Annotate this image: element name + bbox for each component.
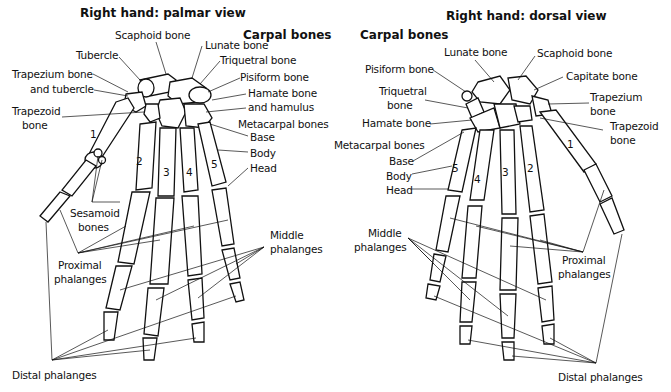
palmar-label-head: Head [250, 163, 277, 175]
palmar-thumb-proximal-phalanx [62, 160, 96, 196]
palmar-ring-distal-phalanx [192, 322, 204, 342]
dorsal-middle-distal-phalanx [502, 342, 514, 360]
palmar-metacarpal-3 [158, 128, 176, 196]
palmar-label-trapezoid-2: bone [22, 120, 47, 132]
palmar-label-base: Base [250, 132, 275, 144]
palmar-label-hamate-2: and hamulus [248, 102, 314, 114]
palmar-label-trapezium-1: Trapezium bone [12, 69, 93, 81]
palmar-label-body: Body [250, 148, 276, 160]
dorsal-label-middle-1: Middle [368, 228, 401, 240]
palmar-ring-middle-phalanx [188, 278, 204, 320]
palmar-view-title: Right hand: palmar view [80, 6, 246, 20]
palmar-label-triquetral: Triquetral bone [220, 55, 296, 67]
palmar-label-scaphoid: Scaphoid bone [115, 30, 190, 42]
dorsal-label-trapezium-1: Trapezium [590, 92, 642, 104]
palmar-label-sesamoid-1: Sesamoid [70, 208, 120, 220]
dorsal-label-trapezoid-2: bone [610, 135, 635, 147]
palmar-middle-middle-phalanx [144, 288, 164, 336]
dorsal-digit-number-1: 1 [567, 138, 574, 150]
dorsal-pisiform-bone [462, 91, 472, 101]
palmar-label-hamate-1: Hamate bone [248, 88, 317, 100]
dorsal-ring-middle-phalanx [460, 282, 476, 322]
dorsal-thumb-proximal-phalanx [584, 164, 612, 202]
dorsal-view-title: Right hand: dorsal view [446, 9, 607, 23]
palmar-metacarpal-4 [180, 128, 198, 192]
palmar-label-trapezium-2: and tubercle [30, 84, 94, 96]
dorsal-little-proximal-phalanx [436, 196, 460, 252]
dorsal-label-metacarpal: Metacarpal bones [334, 140, 424, 152]
dorsal-digit-number-2: 2 [527, 162, 534, 174]
palmar-metacarpal-5 [198, 122, 226, 186]
dorsal-label-capitate: Capitate bone [566, 71, 637, 83]
dorsal-label-trapezoid-1: Trapezoid [610, 121, 658, 133]
palmar-digit-number-3: 3 [163, 166, 170, 178]
dorsal-ring-proximal-phalanx [462, 206, 482, 278]
palmar-capitate-bone [156, 98, 186, 128]
dorsal-label-head: Head [386, 185, 413, 197]
dorsal-label-pisiform: Pisiform bone [365, 64, 434, 76]
palmar-label-distal: Distal phalanges [12, 370, 96, 382]
dorsal-metacarpal-5 [448, 128, 476, 192]
dorsal-label-lunate: Lunate bone [444, 47, 507, 59]
dorsal-label-triquetral-1: Triquetral [379, 86, 427, 98]
dorsal-digit-number-4: 4 [474, 173, 481, 185]
palmar-label-tubercle: Tubercle [76, 50, 118, 62]
dorsal-ring-distal-phalanx [460, 326, 472, 344]
palmar-index-distal-phalanx [104, 312, 118, 340]
dorsal-index-distal-phalanx [542, 324, 554, 344]
palmar-label-middle-1: Middle [270, 230, 303, 242]
palmar-label-proximal-2: phalanges [54, 274, 107, 286]
palmar-little-distal-phalanx [230, 282, 244, 302]
palmar-label-proximal-1: Proximal [58, 260, 101, 272]
palmar-digit-number-4: 4 [186, 166, 193, 178]
palmar-pisiform-bone [189, 87, 211, 103]
dorsal-label-middle-2: phalanges [354, 242, 407, 254]
palmar-digit-number-5: 5 [211, 158, 218, 170]
dorsal-thumb-distal-phalanx [600, 198, 624, 234]
dorsal-label-triquetral-2: bone [387, 100, 412, 112]
palmar-label-trapezoid-1: Trapezoid [12, 106, 60, 118]
dorsal-digit-number-3: 3 [502, 166, 509, 178]
dorsal-middle-proximal-phalanx [500, 218, 518, 290]
palmar-thumb-distal-phalanx [40, 192, 70, 222]
dorsal-label-body: Body [386, 171, 412, 183]
palmar-digit-number-2: 2 [136, 155, 143, 167]
dorsal-label-hamate: Hamate bone [362, 118, 431, 130]
sesamoid-bone [94, 149, 102, 157]
palmar-middle-distal-phalanx [143, 338, 157, 360]
palmar-label-pisiform: Pisiform bone [240, 72, 309, 84]
dorsal-label-proximal-2: phalanges [558, 269, 611, 281]
dorsal-label-scaphoid: Scaphoid bone [537, 48, 612, 60]
palmar-label-sesamoid-2: bones [78, 222, 109, 234]
dorsal-carpal-bones-heading: Carpal bones [360, 28, 448, 42]
palmar-index-middle-phalanx [106, 266, 132, 310]
palmar-label-middle-2: phalanges [270, 244, 323, 256]
dorsal-digit-number-5: 5 [452, 162, 459, 174]
palmar-label-metacarpal: Metacarpal bones [238, 119, 328, 131]
dorsal-label-base: Base [389, 156, 414, 168]
palmar-digit-number-1: 1 [90, 128, 97, 140]
dorsal-label-distal: Distal phalanges [558, 372, 642, 384]
palmar-trapezoid-bone [144, 104, 160, 122]
palmar-label-lunate: Lunate bone [205, 40, 268, 52]
dorsal-index-middle-phalanx [538, 286, 554, 322]
dorsal-label-proximal-1: Proximal [562, 255, 605, 267]
dorsal-label-trapezium-2: bone [590, 106, 615, 118]
palmar-little-proximal-phalanx [212, 188, 234, 246]
palmar-ring-proximal-phalanx [182, 196, 202, 276]
palmar-little-middle-phalanx [222, 248, 240, 280]
